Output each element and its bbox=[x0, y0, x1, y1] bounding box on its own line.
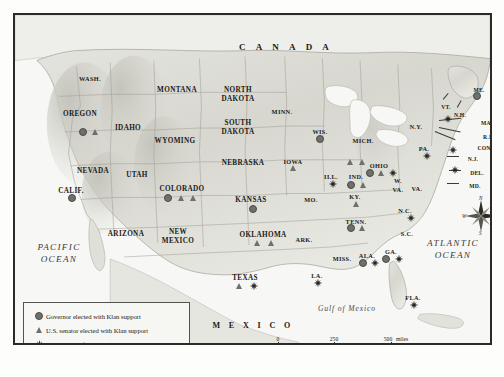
legend-item: U.S. senator elected with Klan support bbox=[32, 324, 148, 336]
label-pacific-ocean: PACIFIC OCEAN bbox=[37, 241, 80, 265]
state-label: SOUTH bbox=[225, 119, 252, 127]
scale-label-mi-0: 0 bbox=[277, 336, 280, 342]
senator-marker-icon bbox=[236, 283, 242, 289]
state-label: MASS. bbox=[481, 119, 490, 127]
violence-marker-icon bbox=[407, 214, 416, 223]
legend-item-label: U.S. senator elected with Klan support bbox=[46, 327, 148, 334]
governor-marker-icon bbox=[347, 181, 355, 189]
atlantic-line-2: OCEAN bbox=[435, 250, 472, 260]
violence-marker-icon bbox=[314, 279, 323, 288]
state-label: MEXICO bbox=[162, 237, 194, 245]
violence-marker-icon bbox=[451, 166, 460, 175]
state-label: MD. bbox=[469, 182, 480, 190]
scale-label-mi-250: 250 bbox=[330, 336, 338, 342]
leader-line-nj bbox=[447, 156, 459, 157]
map-legend: Governor elected with Klan supportU.S. s… bbox=[23, 302, 190, 343]
state-label: MICH. bbox=[352, 137, 373, 145]
senator-marker-icon bbox=[254, 240, 260, 246]
violence-marker-icon bbox=[444, 115, 453, 124]
senator-marker-icon bbox=[378, 170, 384, 176]
legend-violence-icon bbox=[32, 340, 46, 344]
legend-item-label: Governor elected with Klan support bbox=[46, 313, 141, 320]
violence-marker-icon bbox=[410, 301, 419, 310]
governor-marker-icon bbox=[68, 194, 76, 202]
governor-marker-icon bbox=[249, 205, 257, 213]
scale-unit-miles: miles bbox=[396, 336, 408, 342]
pacific-line-2: OCEAN bbox=[41, 254, 78, 264]
state-label: NORTH bbox=[224, 86, 252, 94]
state-label: VA. bbox=[412, 185, 423, 193]
atlantic-line-1: ATLANTIC bbox=[427, 238, 479, 248]
state-label: DEL. bbox=[470, 169, 484, 177]
state-label: KANSAS bbox=[235, 196, 266, 204]
state-label: VA. bbox=[393, 186, 404, 194]
state-label: IDAHO bbox=[115, 124, 141, 132]
state-label: ARK. bbox=[296, 236, 313, 244]
leader-line-md bbox=[447, 183, 459, 184]
compass-label-w: W bbox=[462, 213, 466, 219]
state-label: VT. bbox=[441, 103, 450, 111]
state-label: COLORADO bbox=[159, 185, 204, 193]
state-label: DAKOTA bbox=[221, 95, 254, 103]
scale-tick-mi-0 bbox=[278, 342, 279, 343]
senator-marker-icon bbox=[290, 165, 296, 171]
state-label: WASH. bbox=[79, 75, 101, 83]
violence-marker-icon bbox=[423, 152, 432, 161]
compass-label-s: S bbox=[479, 230, 482, 236]
legend-senator-icon bbox=[32, 327, 46, 333]
state-label: CONN. bbox=[478, 144, 490, 152]
violence-marker-icon bbox=[371, 259, 380, 268]
violence-marker-icon bbox=[449, 146, 458, 155]
scale-tick-mi-mid bbox=[334, 342, 335, 343]
state-label: UTAH bbox=[126, 171, 148, 179]
compass-rose: N E S W bbox=[461, 193, 490, 239]
state-label: R.I. bbox=[483, 133, 490, 141]
governor-marker-icon bbox=[316, 135, 324, 143]
governor-marker-icon bbox=[473, 92, 481, 100]
state-label: MO. bbox=[304, 196, 317, 204]
senator-marker-icon bbox=[359, 159, 365, 165]
state-label: N.Y. bbox=[409, 123, 422, 131]
state-label: NEBRASKA bbox=[222, 159, 265, 167]
label-mexico: M E X I C O bbox=[212, 321, 293, 330]
violence-marker-icon bbox=[250, 282, 259, 291]
scale-label-mi-500: 500 bbox=[384, 336, 392, 342]
senator-marker-icon bbox=[347, 159, 353, 165]
compass-label-n: N bbox=[479, 195, 482, 201]
senator-marker-icon bbox=[190, 195, 196, 201]
governor-marker-icon bbox=[79, 128, 87, 136]
legend-item: Governor elected with Klan support bbox=[32, 310, 141, 322]
legend-governor-icon bbox=[32, 312, 46, 320]
governor-marker-icon bbox=[359, 259, 367, 267]
scale-tick-mi-end bbox=[391, 342, 392, 343]
label-gulf-of-mexico: Gulf of Mexico bbox=[318, 304, 376, 313]
state-label: ARIZONA bbox=[108, 230, 144, 238]
state-label: OREGON bbox=[63, 110, 97, 118]
state-label: WYOMING bbox=[155, 137, 196, 145]
state-label: N.J. bbox=[468, 155, 478, 163]
violence-marker-icon bbox=[395, 255, 404, 264]
legend-item-label: Major areas of Klan violence bbox=[46, 341, 123, 344]
scale-bar: 0 250 500 miles 0 250 500 kilometers bbox=[270, 337, 420, 343]
state-label: NEW bbox=[169, 228, 187, 236]
state-label: MISS. bbox=[333, 255, 352, 263]
map-frame: C A N A D A M E X I C O PACIFIC OCEAN AT… bbox=[13, 13, 492, 345]
governor-marker-icon bbox=[347, 224, 355, 232]
governor-marker-icon bbox=[164, 194, 172, 202]
violence-marker-icon bbox=[389, 169, 398, 178]
legend-item: Major areas of Klan violence bbox=[32, 338, 123, 343]
senator-marker-icon bbox=[268, 240, 274, 246]
state-label: W. bbox=[394, 177, 402, 185]
violence-marker-icon bbox=[329, 180, 338, 189]
label-canada: C A N A D A bbox=[239, 42, 333, 52]
governor-marker-icon bbox=[366, 169, 374, 177]
senator-marker-icon bbox=[92, 129, 98, 135]
map-figure: C A N A D A M E X I C O PACIFIC OCEAN AT… bbox=[0, 0, 504, 377]
state-label: OKLAHOMA bbox=[239, 231, 286, 239]
senator-marker-icon bbox=[360, 182, 366, 188]
senator-marker-icon bbox=[353, 201, 359, 207]
pacific-line-1: PACIFIC bbox=[37, 242, 80, 252]
label-atlantic-ocean: ATLANTIC OCEAN bbox=[427, 237, 479, 261]
state-label: DAKOTA bbox=[221, 128, 254, 136]
senator-marker-icon bbox=[178, 195, 184, 201]
